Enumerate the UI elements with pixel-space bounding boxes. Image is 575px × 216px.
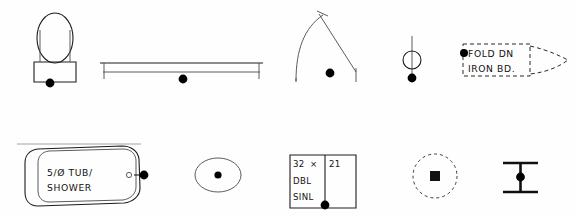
symbol-legend-sheet: FOLD DN IRON BD. 5/Ø TUB/ SHOWER 32 ×	[0, 0, 575, 216]
toilet-side-walls	[40, 30, 70, 62]
sink-depth-label: 21	[329, 159, 341, 169]
pole-anchor-dot	[408, 74, 417, 83]
ironing-board-anchor-dot	[460, 49, 468, 57]
iron-bd-label: IRON BD.	[468, 63, 515, 74]
shelf-anchor-dot	[179, 75, 188, 84]
legend-drawing-canvas: FOLD DN IRON BD. 5/Ø TUB/ SHOWER 32 ×	[0, 0, 575, 216]
door-swing-arc	[296, 15, 323, 81]
sink-sinl-label: SINL	[293, 192, 314, 202]
double-sink-symbol[interactable]: 32 × 21 DBL SINL	[290, 155, 356, 209]
oval-lavatory-symbol[interactable]	[195, 158, 241, 192]
beam-anchor-dot	[516, 173, 525, 182]
ironing-board-tail	[530, 46, 568, 74]
water-closet-symbol[interactable]	[34, 13, 76, 87]
tub-size-label: 5/Ø TUB/	[47, 167, 93, 178]
double-sink-anchor-dot	[321, 201, 330, 210]
sink-dbl-label: DBL	[293, 176, 312, 186]
fold-down-ironing-board-symbol[interactable]: FOLD DN IRON BD.	[460, 44, 568, 76]
tub-drain-icon	[126, 172, 131, 177]
door-leaf-line	[319, 14, 356, 72]
pole-circle-symbol[interactable]	[403, 36, 421, 82]
lavatory-drain-dot	[214, 171, 221, 178]
sink-width-label: 32	[293, 159, 305, 169]
tub-shower-symbol[interactable]: 5/Ø TUB/ SHOWER	[25, 146, 148, 206]
door-anchor-dot	[326, 69, 335, 78]
fold-dn-label: FOLD DN	[468, 48, 514, 59]
door-swing-symbol[interactable]	[296, 11, 356, 82]
sink-size-separator: ×	[310, 159, 318, 169]
ceiling-fixture-symbol[interactable]	[413, 154, 457, 198]
toilet-tank-icon	[34, 62, 76, 82]
beam-section-symbol[interactable]	[503, 163, 538, 192]
shower-label: SHOWER	[47, 182, 92, 193]
tub-anchor-dot	[140, 171, 149, 180]
toilet-anchor-dot	[46, 79, 55, 88]
shelf-and-rod-symbol[interactable]	[100, 63, 263, 83]
ceiling-fixture-center-square	[430, 171, 440, 181]
toilet-bowl-icon	[37, 13, 73, 63]
